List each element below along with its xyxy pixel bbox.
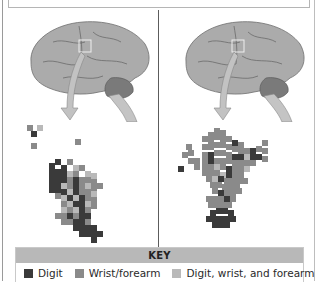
brain-illustration-left	[23, 12, 153, 122]
key-item-wrist-forearm: Wrist/forearm	[75, 267, 161, 279]
caption-box	[8, 0, 310, 8]
motor-map-left	[27, 121, 127, 246]
key-item-label: Digit	[38, 267, 63, 279]
mixed-swatch-icon	[172, 269, 181, 278]
key-title: KEY	[16, 248, 303, 263]
key-item-digit-wrist-forearm: Digit, wrist, and forearm	[172, 267, 314, 279]
key-items: Digit Wrist/forearm Digit, wrist, and fo…	[16, 263, 303, 279]
legend-key: KEY Digit Wrist/forearm Digit, wrist, an…	[15, 247, 304, 282]
brain-illustration-right	[178, 12, 308, 122]
digit-swatch-icon	[24, 269, 33, 278]
key-item-label: Digit, wrist, and forearm	[186, 267, 314, 279]
right-panel	[160, 8, 310, 246]
motor-map-right	[178, 126, 288, 246]
left-panel	[5, 8, 155, 246]
key-item-digit: Digit	[24, 267, 63, 279]
wrist-forearm-swatch-icon	[75, 269, 84, 278]
key-item-label: Wrist/forearm	[89, 267, 161, 279]
panel-divider	[158, 10, 159, 247]
